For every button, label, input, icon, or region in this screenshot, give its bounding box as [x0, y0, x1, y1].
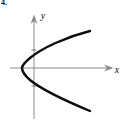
parabola-curve	[22, 31, 90, 111]
x-axis-label: x	[114, 64, 120, 75]
y-axis-label: y	[40, 10, 46, 21]
parabola-figure: 4. x y	[0, 0, 127, 123]
coordinate-plot: x y	[0, 0, 127, 123]
